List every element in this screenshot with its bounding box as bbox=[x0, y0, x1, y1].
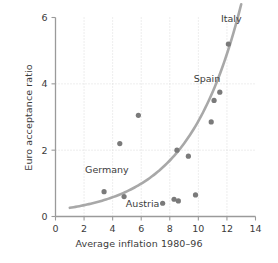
point-label: Italy bbox=[221, 13, 242, 24]
x-tick-label: 2 bbox=[81, 223, 87, 234]
point-label: Spain bbox=[194, 73, 221, 84]
point-label: Austria bbox=[126, 198, 160, 209]
data-point bbox=[217, 90, 222, 95]
x-tick-label: 12 bbox=[221, 223, 233, 234]
x-tick-label: 14 bbox=[249, 223, 261, 234]
y-tick-label: 2 bbox=[41, 145, 47, 156]
data-points-group bbox=[101, 41, 230, 205]
x-axis-title: Average inflation 1980–96 bbox=[0, 238, 278, 249]
data-point bbox=[117, 141, 122, 146]
y-tick-label: 6 bbox=[41, 12, 47, 23]
y-axis-title: Euro acceptance ratio bbox=[23, 28, 34, 208]
data-point bbox=[176, 198, 181, 203]
data-point bbox=[226, 41, 231, 46]
trend-curve-group bbox=[70, 4, 241, 208]
gridlines-group bbox=[56, 18, 256, 217]
scatter-chart-figure: 024681012140246 ItalySpainGermanyAustria… bbox=[0, 0, 278, 263]
chart-canvas: 024681012140246 ItalySpainGermanyAustria bbox=[0, 0, 278, 263]
y-tick-label: 0 bbox=[41, 211, 47, 222]
point-label: Germany bbox=[85, 164, 129, 175]
data-point bbox=[193, 192, 198, 197]
exponential-trend-curve bbox=[70, 4, 241, 208]
data-point bbox=[101, 189, 106, 194]
x-tick-label: 10 bbox=[192, 223, 204, 234]
data-point bbox=[209, 119, 214, 124]
tick-marks-group bbox=[52, 18, 256, 221]
data-point bbox=[211, 98, 216, 103]
x-tick-label: 6 bbox=[138, 223, 144, 234]
y-tick-label: 4 bbox=[41, 78, 47, 89]
x-tick-label: 8 bbox=[167, 223, 173, 234]
point-annotations-group: ItalySpainGermanyAustria bbox=[85, 13, 242, 209]
data-point bbox=[174, 148, 179, 153]
data-point bbox=[160, 201, 165, 206]
data-point bbox=[186, 154, 191, 159]
axes-group bbox=[56, 18, 256, 217]
x-tick-label: 4 bbox=[110, 223, 116, 234]
x-tick-label: 0 bbox=[52, 223, 58, 234]
data-point bbox=[136, 113, 141, 118]
